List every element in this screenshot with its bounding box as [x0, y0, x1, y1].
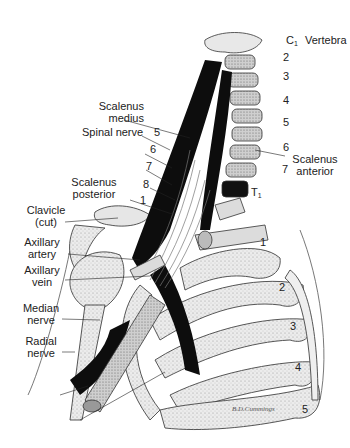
spinal-nerve-number: 8 [143, 178, 149, 190]
axillary-artery-label: Axillaryartery [14, 236, 70, 260]
scalenus-posterior-label: Scalenusposterior [60, 176, 128, 200]
spinal-nerve-label: Spinal nerve [82, 126, 143, 138]
spinal-nerve-number: 1 [140, 194, 146, 206]
vertebra-number: 6 [283, 141, 289, 153]
median-nerve-label: Mediannerve [16, 302, 66, 326]
spinal-nerve-number: 6 [150, 143, 156, 155]
clavicle [94, 206, 150, 226]
vertebra-label: Vertebra [305, 34, 347, 46]
spinal-nerve-number: 7 [146, 160, 152, 172]
rib-number: 1 [260, 236, 266, 248]
vertebra-number: 2 [283, 51, 289, 63]
vertebra-c1-label: C1 [286, 34, 298, 50]
vertebra-number: 4 [283, 94, 289, 106]
rib-number: 2 [279, 281, 285, 293]
rib-number: 3 [290, 320, 296, 332]
radial-nerve-label: Radialnerve [16, 335, 66, 359]
spinal-nerve-number: 5 [154, 126, 160, 138]
vertebra-number: 3 [283, 70, 289, 82]
subclavian-artery [215, 198, 245, 220]
vertebra-number: 5 [283, 116, 289, 128]
rib-number: 5 [302, 403, 308, 415]
t1-vertebra [222, 181, 248, 197]
artist-signature: B.D.Cummings [232, 405, 275, 413]
clavicle-label: Clavicle(cut) [18, 204, 74, 228]
axillary-vein-label: Axillaryvein [14, 264, 70, 288]
atlas-c1 [205, 33, 262, 53]
t1-label: T1 [251, 186, 262, 202]
scalenus-anterior-label: Scalenusanterior [280, 153, 350, 177]
scalenus-medius-label: Scalenusmedius [80, 100, 144, 124]
rib-number: 4 [295, 361, 301, 373]
